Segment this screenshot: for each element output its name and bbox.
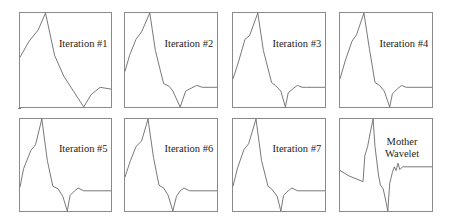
panel-label: Mother Wavelet [367,136,437,160]
panel-label: Iteration #3 [262,38,332,50]
panel-8: Mother Wavelet [339,118,433,212]
waveform-plot [233,119,327,213]
waveform-line [20,119,111,211]
waveform-line [125,13,217,107]
panel-2: Iteration #2 [124,12,218,108]
panel-label: Iteration #4 [369,38,439,50]
waveform-plot [20,119,113,213]
waveform-plot [233,13,327,109]
panel-label: Iteration #5 [48,143,118,155]
panel-label: Iteration #1 [48,38,118,50]
panel-label: Iteration #2 [154,38,224,50]
waveform-plot [340,13,434,109]
waveform-line [340,119,432,211]
waveform-plot [125,119,219,213]
panel-3: Iteration #3 [232,12,326,108]
waveform-line [233,119,325,211]
panel-5: Iteration #5 [19,118,112,212]
waveform-line [340,13,432,107]
waveform-line [125,119,217,211]
waveform-plot [340,119,434,213]
panel-7: Iteration #7 [232,118,326,212]
panel-label: Iteration #7 [262,143,332,155]
panel-6: Iteration #6 [124,118,218,212]
axis-tick-mark [18,108,21,109]
waveform-plot [20,13,113,109]
panel-1: Iteration #1 [19,12,112,108]
waveform-plot [125,13,219,109]
panel-4: Iteration #4 [339,12,433,108]
waveform-line [20,13,111,107]
panel-label: Iteration #6 [154,143,224,155]
waveform-line [233,13,325,107]
